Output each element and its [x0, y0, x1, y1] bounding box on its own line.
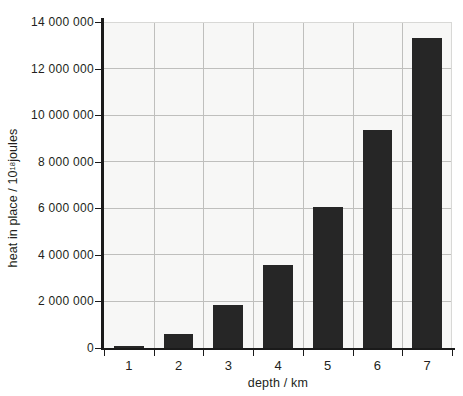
gridline-vertical	[402, 22, 403, 348]
gridline-horizontal	[104, 115, 452, 116]
y-axis-tick-label: 4 000 000	[38, 248, 94, 262]
y-axis-tick-mark	[95, 22, 102, 23]
y-axis-tick-label: 6 000 000	[38, 201, 94, 215]
y-axis-tick-label: 10 000 000	[31, 108, 94, 122]
gridline-horizontal	[104, 68, 452, 69]
x-axis-title: depth / km	[104, 376, 452, 390]
y-axis-tick-label: 8 000 000	[38, 155, 94, 169]
bar	[313, 207, 343, 348]
y-axis-tick-label: 14 000 000	[31, 15, 94, 29]
bar	[263, 265, 293, 348]
gridline-horizontal	[104, 254, 452, 255]
x-axis-tick-mark	[203, 350, 204, 356]
x-axis-tick-mark	[452, 350, 453, 356]
x-axis-tick-mark	[402, 350, 403, 356]
y-axis-tick-mark	[95, 348, 102, 349]
x-axis-tick-mark	[303, 350, 304, 356]
bar	[213, 305, 243, 348]
bar	[412, 38, 442, 348]
y-axis-tick-labels: 02 000 0004 000 0006 000 0008 000 00010 …	[26, 0, 98, 396]
x-axis-tick-mark	[154, 350, 155, 356]
y-axis-tick-mark	[95, 208, 102, 209]
gridline-horizontal	[104, 208, 452, 209]
gridline-vertical	[253, 22, 254, 348]
gridline-vertical	[154, 22, 155, 348]
gridline-vertical	[203, 22, 204, 348]
x-axis-tick-mark	[104, 350, 105, 356]
y-axis-tick-label: 12 000 000	[31, 62, 94, 76]
y-axis-tick-mark	[95, 255, 102, 256]
plot-area	[104, 22, 452, 348]
x-axis-tick-mark	[253, 350, 254, 356]
bar	[363, 130, 393, 348]
gridline-horizontal	[104, 22, 452, 23]
y-axis-tick-label: 2 000 000	[38, 294, 94, 308]
y-axis-title-prefix: heat in place / 10	[6, 170, 20, 267]
gridline-vertical	[303, 22, 304, 348]
y-axis-tick-mark	[95, 162, 102, 163]
x-axis-tick-label: 3	[225, 358, 232, 373]
x-axis-tick-label: 4	[274, 358, 281, 373]
x-axis-tick-label: 7	[424, 358, 431, 373]
bar	[164, 334, 194, 348]
y-axis-tick-label: 0	[87, 341, 94, 355]
y-axis-tick-mark	[95, 69, 102, 70]
y-axis-tick-mark	[95, 115, 102, 116]
x-axis-tick-label: 6	[374, 358, 381, 373]
y-axis-title-suffix: joules	[6, 129, 20, 162]
gridline-horizontal	[104, 161, 452, 162]
x-axis-tick-mark	[353, 350, 354, 356]
x-axis-tick-label: 5	[324, 358, 331, 373]
y-axis-title: heat in place / 1018 joules	[0, 0, 26, 396]
x-axis-tick-label: 2	[175, 358, 182, 373]
x-axis-tick-label: 1	[125, 358, 132, 373]
y-axis-tick-mark	[95, 301, 102, 302]
bar-chart: heat in place / 1018 joules 02 000 0004 …	[0, 0, 463, 396]
gridline-vertical	[353, 22, 354, 348]
